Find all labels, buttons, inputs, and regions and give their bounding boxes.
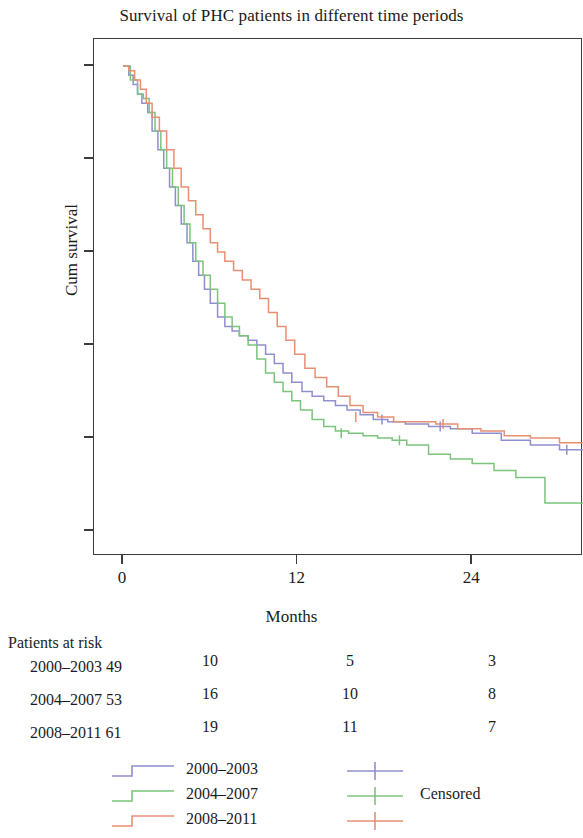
legend-step-swatch bbox=[110, 787, 176, 805]
risk-row-label: 2004–2007 53 bbox=[30, 691, 122, 709]
x-tick-mark bbox=[121, 555, 123, 564]
survival-curve-2004-2007 bbox=[123, 66, 583, 503]
risk-row-value: 7 bbox=[469, 718, 515, 736]
y-tick-mark bbox=[84, 250, 93, 252]
legend-step-swatch bbox=[110, 812, 176, 830]
risk-table-row: 2008–2011 6119117 bbox=[0, 724, 583, 746]
chart-legend: 2000–20032004–2007Censored2008–2011 bbox=[0, 760, 583, 838]
legend-censored-marker bbox=[345, 786, 405, 806]
legend-censored-marker bbox=[345, 761, 405, 781]
legend-censored-marker bbox=[345, 811, 405, 831]
risk-row-value: 11 bbox=[327, 718, 373, 736]
risk-row-value: 10 bbox=[327, 685, 373, 703]
legend-label: 2008–2011 bbox=[186, 810, 257, 828]
legend-row: 2000–2003 bbox=[0, 760, 583, 785]
survival-chart: Survival of PHC patients in different ti… bbox=[0, 0, 583, 838]
y-tick-mark bbox=[84, 157, 93, 159]
survival-curves bbox=[94, 39, 583, 556]
survival-curve-2000-2003 bbox=[123, 66, 583, 471]
y-axis-label: Cum survival bbox=[62, 150, 82, 350]
y-tick-mark bbox=[84, 343, 93, 345]
risk-row-value: 8 bbox=[469, 685, 515, 703]
plot-area bbox=[93, 38, 582, 555]
legend-row: 2008–2011 bbox=[0, 810, 583, 835]
y-tick-mark bbox=[84, 436, 93, 438]
chart-title: Survival of PHC patients in different ti… bbox=[0, 6, 583, 26]
risk-row-value: 5 bbox=[327, 652, 373, 670]
risk-row-label: 2008–2011 61 bbox=[30, 724, 121, 742]
y-tick-mark bbox=[84, 529, 93, 531]
legend-censored-label: Censored bbox=[420, 785, 480, 803]
risk-row-label: 2000–2003 49 bbox=[30, 658, 122, 676]
risk-table-row: 2004–2007 5316108 bbox=[0, 691, 583, 713]
x-tick-mark bbox=[296, 555, 298, 564]
y-tick-mark bbox=[84, 64, 93, 66]
x-tick-label: 0 bbox=[92, 569, 152, 586]
risk-row-value: 10 bbox=[187, 652, 233, 670]
risk-row-value: 3 bbox=[469, 652, 515, 670]
risk-table-row: 2000–2003 491053 bbox=[0, 658, 583, 680]
risk-row-value: 16 bbox=[187, 685, 233, 703]
legend-step-swatch bbox=[110, 762, 176, 780]
x-tick-mark bbox=[470, 555, 472, 564]
x-tick-label: 12 bbox=[267, 569, 327, 586]
x-axis-label: Months bbox=[0, 607, 583, 627]
legend-label: 2000–2003 bbox=[186, 760, 258, 778]
legend-label: 2004–2007 bbox=[186, 785, 258, 803]
risk-table-heading: Patients at risk bbox=[8, 634, 102, 652]
risk-row-value: 19 bbox=[187, 718, 233, 736]
x-tick-label: 24 bbox=[441, 569, 501, 586]
legend-row: 2004–2007Censored bbox=[0, 785, 583, 810]
